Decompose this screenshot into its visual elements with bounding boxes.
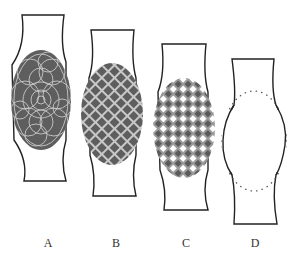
panel-a: [11, 15, 71, 181]
panel-d: [222, 59, 286, 224]
label-b: B: [106, 236, 126, 251]
panel-b: [81, 30, 143, 196]
label-d: D: [245, 236, 265, 251]
label-a: A: [38, 236, 58, 251]
label-c: C: [176, 236, 196, 251]
figure-canvas: [0, 0, 295, 261]
oval-pad-b: [81, 63, 143, 165]
oval-pad-c: [153, 78, 215, 178]
panel-c: [153, 44, 215, 210]
